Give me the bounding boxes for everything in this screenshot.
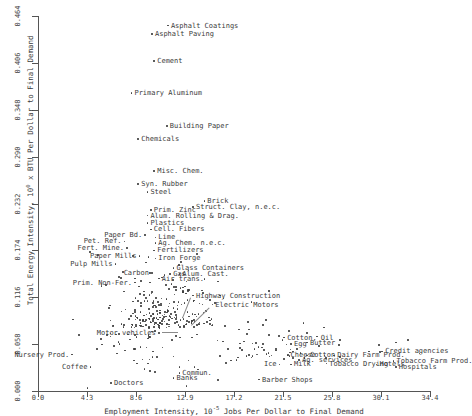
data-point (135, 326, 137, 328)
point-label: Nursery Prod. (14, 351, 69, 359)
data-point (257, 354, 259, 356)
labeled-data-point (153, 60, 155, 62)
data-point (133, 348, 135, 350)
data-point (139, 319, 141, 321)
data-point (160, 305, 162, 307)
x-axis-tick-label: 12.9 (177, 394, 194, 402)
point-label: Primary Aluminum (134, 89, 201, 97)
data-point (183, 325, 185, 327)
data-point (194, 366, 196, 368)
point-label: Barber Shops (262, 376, 313, 384)
data-point (290, 349, 292, 351)
data-point (252, 355, 254, 357)
x-axis-tick-label: 8.6 (130, 394, 143, 402)
data-point (132, 301, 134, 303)
data-point (157, 313, 159, 315)
data-point (241, 349, 243, 351)
data-point (170, 313, 172, 315)
data-point (157, 301, 159, 303)
data-point (269, 356, 271, 358)
data-point (236, 359, 238, 361)
data-point (288, 330, 290, 332)
y-axis-tick-label: 0.000 (0, 386, 32, 396)
data-point (222, 341, 224, 343)
data-point (246, 355, 248, 357)
y-axis-tick-label: 0.464 (0, 11, 32, 21)
point-label: Cement (157, 57, 182, 65)
data-point (140, 311, 142, 313)
data-point (138, 286, 140, 288)
data-point (202, 304, 204, 306)
data-point (100, 338, 102, 340)
data-point (154, 371, 156, 373)
data-point (170, 316, 172, 318)
data-point (217, 340, 219, 342)
labeled-data-point (153, 250, 155, 252)
data-point (179, 337, 181, 339)
data-point (152, 351, 154, 353)
data-point (152, 302, 154, 304)
data-point (407, 339, 409, 341)
data-point (230, 360, 232, 362)
data-point (139, 293, 141, 295)
electric-motors-leader (191, 307, 210, 325)
data-point (212, 324, 214, 326)
data-point (261, 347, 263, 349)
point-label: Butter (310, 339, 335, 347)
data-point (140, 346, 142, 348)
data-point (254, 348, 256, 350)
data-point (165, 316, 167, 318)
x-axis-tick-label: 21.5 (275, 394, 292, 402)
data-point (134, 309, 136, 311)
data-point (173, 356, 175, 358)
data-point (130, 315, 132, 317)
data-point (147, 338, 149, 340)
point-label: Misc. Chem. (157, 167, 203, 175)
data-point (142, 326, 144, 328)
data-point (176, 321, 178, 323)
motor-vehicles-leader (162, 332, 178, 333)
x-axis-tick-label: 34.4 (422, 394, 439, 402)
data-point (125, 309, 127, 311)
data-point (168, 288, 170, 290)
data-point (116, 353, 118, 355)
data-point (161, 323, 163, 325)
data-point (175, 289, 177, 291)
point-label: Credit agencies (385, 347, 448, 355)
point-label: Fertilizers (157, 246, 203, 254)
point-label: Building Paper (170, 122, 229, 130)
labeled-data-point (158, 278, 160, 280)
data-point (165, 284, 167, 286)
data-point (124, 350, 126, 352)
x-axis-tick-label: 30.1 (373, 394, 390, 402)
data-point (199, 303, 201, 305)
data-point (110, 320, 112, 322)
data-point (143, 315, 145, 317)
data-point (123, 324, 125, 326)
labeled-data-point (137, 138, 139, 140)
y-axis-title: Total Energy Intensity, 100 x BTU Per Do… (25, 65, 36, 305)
data-point (169, 326, 171, 328)
point-label: Struct. Clay, n.e.c. (196, 203, 280, 211)
data-point (161, 320, 163, 322)
data-point (282, 339, 284, 341)
data-point (251, 357, 253, 359)
data-point (140, 302, 142, 304)
point-label: Banks (177, 374, 198, 382)
y-axis-tick (32, 344, 39, 345)
labeled-data-point (166, 125, 168, 127)
labeled-data-point (131, 92, 133, 94)
data-point (339, 339, 341, 341)
data-point (204, 278, 206, 280)
data-point (262, 343, 264, 345)
point-label: Hospitals (399, 363, 437, 371)
x-axis-tick-label: 25.8 (324, 394, 341, 402)
data-point (149, 312, 151, 314)
x-axis-title: Employment Intensity, 10-5 Jobs Per Doll… (38, 405, 430, 416)
data-point (164, 311, 166, 313)
labeled-data-point (258, 379, 260, 381)
labeled-data-point (139, 255, 141, 257)
data-point (135, 324, 137, 326)
data-point (87, 387, 89, 389)
data-point (262, 324, 264, 326)
